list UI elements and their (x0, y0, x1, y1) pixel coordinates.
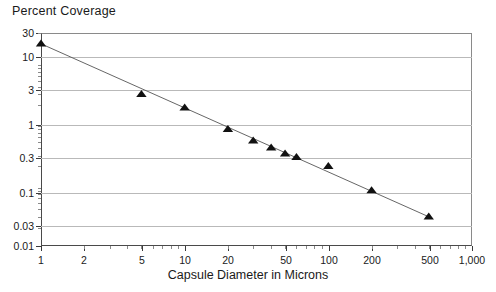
x-axis-tick-label: 5 (139, 254, 145, 266)
chart-container: Percent Coverage 3010310.30.10.030.01 12… (0, 0, 496, 292)
x-tick-mark-minor (110, 246, 111, 249)
x-tick-mark-minor (162, 246, 163, 249)
x-tick-mark-minor (322, 246, 323, 249)
x-tick-mark-minor (458, 246, 459, 249)
x-tick-mark-minor (429, 246, 430, 249)
x-axis-tick-label: 500 (421, 254, 439, 266)
data-point-marker (323, 162, 333, 169)
y-axis-tick-label: 0.03 (14, 220, 34, 232)
data-markers (36, 39, 434, 219)
x-tick-mark (472, 246, 473, 251)
data-point-marker (179, 104, 189, 111)
y-axis-tick-label: 3 (28, 84, 34, 96)
y-axis-tick-label: 1 (28, 119, 34, 131)
x-axis-tick-label: 200 (363, 254, 381, 266)
x-tick-mark (185, 246, 186, 251)
x-axis-tick-label: 50 (280, 254, 292, 266)
x-axis-tick-label: 100 (320, 254, 338, 266)
x-axis-title: Capsule Diameter in Microns (0, 268, 496, 282)
x-tick-mark (286, 246, 287, 251)
x-tick-mark-minor (450, 246, 451, 249)
x-axis-tick-label: 1 (38, 254, 44, 266)
data-point-marker (280, 149, 290, 156)
x-tick-mark (430, 246, 431, 251)
x-axis-tick-label: 1,000 (459, 254, 485, 266)
x-tick-mark-minor (178, 246, 179, 249)
y-axis-tick-label: 0.01 (14, 240, 34, 252)
x-tick-mark-minor (141, 246, 142, 249)
x-tick-mark-minor (372, 246, 373, 249)
data-series (41, 33, 472, 246)
chart-title: Percent Coverage (12, 4, 116, 18)
x-axis-tick-label: 10 (179, 254, 191, 266)
x-tick-mark-minor (397, 246, 398, 249)
x-tick-mark-minor (314, 246, 315, 249)
x-tick-mark-minor (296, 246, 297, 249)
x-tick-mark (329, 246, 330, 251)
y-axis-tick-label: 0.1 (19, 187, 34, 199)
x-tick-mark (41, 246, 42, 251)
plot-area: 3010310.30.10.030.01 1251020501002005001… (41, 33, 472, 246)
y-axis-tick-label: 10 (22, 51, 34, 63)
y-axis-tick-label: 30 (22, 27, 34, 39)
y-axis-tick-label: 0.3 (19, 152, 34, 164)
x-tick-mark-minor (415, 246, 416, 249)
x-tick-mark-minor (306, 246, 307, 249)
x-tick-mark-minor (127, 246, 128, 249)
x-tick-mark-minor (465, 246, 466, 249)
data-point-marker (136, 90, 146, 97)
x-tick-mark-minor (228, 246, 229, 249)
x-tick-mark-minor (171, 246, 172, 249)
x-tick-mark-minor (84, 246, 85, 249)
x-axis-tick-label: 20 (222, 254, 234, 266)
x-tick-mark-minor (271, 246, 272, 249)
x-tick-mark-minor (253, 246, 254, 249)
x-axis-tick-label: 2 (81, 254, 87, 266)
data-point-marker (424, 212, 434, 219)
x-tick-mark-minor (153, 246, 154, 249)
x-tick-mark-minor (440, 246, 441, 249)
x-tick-mark-minor (285, 246, 286, 249)
